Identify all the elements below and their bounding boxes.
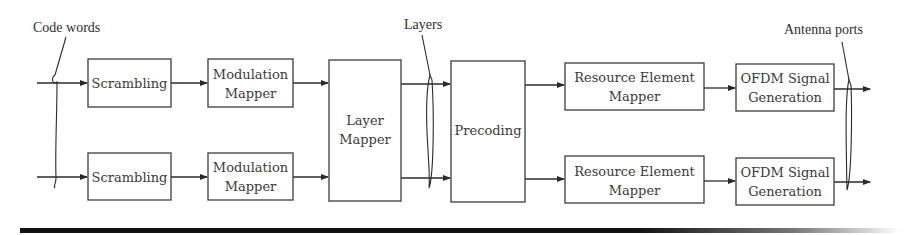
ofdm-1-line2: Generation bbox=[748, 90, 822, 105]
resource-element-mapper-block-2: Resource Element Mapper bbox=[565, 156, 704, 203]
scrambling-2-label: Scrambling bbox=[92, 170, 168, 185]
ofdm-signal-generation-block-1: OFDM Signal Generation bbox=[736, 64, 834, 111]
layer-mapper-line1: Layer bbox=[346, 113, 384, 128]
modulation-1-line2: Mapper bbox=[225, 86, 277, 101]
precoding-block: Precoding bbox=[451, 61, 525, 202]
resource-element-mapper-block-1: Resource Element Mapper bbox=[565, 63, 704, 110]
antenna-ports-label: Antenna ports bbox=[784, 22, 863, 37]
precoding-label: Precoding bbox=[455, 123, 522, 138]
scrambling-block-1: Scrambling bbox=[88, 59, 171, 107]
modulation-mapper-block-2: Modulation Mapper bbox=[208, 153, 293, 200]
code-words-label: Code words bbox=[33, 20, 100, 35]
layer-mapper-line2: Mapper bbox=[339, 132, 391, 147]
layer-mapper-block: Layer Mapper bbox=[329, 60, 401, 201]
re-mapper-2-line1: Resource Element bbox=[574, 164, 695, 179]
scrambling-1-label: Scrambling bbox=[92, 76, 168, 91]
scrambling-block-2: Scrambling bbox=[88, 153, 171, 200]
code-words-brace bbox=[53, 37, 66, 188]
re-mapper-1-line2: Mapper bbox=[609, 89, 661, 104]
modulation-2-line1: Modulation bbox=[213, 160, 289, 175]
re-mapper-1-line1: Resource Element bbox=[574, 70, 695, 85]
modulation-2-line2: Mapper bbox=[225, 179, 277, 194]
modulation-mapper-block-1: Modulation Mapper bbox=[208, 59, 293, 107]
layers-brace bbox=[422, 35, 433, 188]
ofdm-2-line1: OFDM Signal bbox=[740, 165, 829, 180]
antenna-ports-brace bbox=[842, 42, 852, 190]
ofdm-1-line1: OFDM Signal bbox=[740, 71, 829, 86]
modulation-1-line1: Modulation bbox=[213, 67, 289, 82]
bottom-rule-divider bbox=[20, 228, 900, 233]
re-mapper-2-line2: Mapper bbox=[609, 183, 661, 198]
layers-label: Layers bbox=[404, 17, 442, 32]
ofdm-signal-generation-block-2: OFDM Signal Generation bbox=[736, 158, 834, 205]
ofdm-2-line2: Generation bbox=[748, 184, 822, 199]
lte-downlink-diagram: Code words Layers Antenna ports Scramb bbox=[0, 0, 912, 235]
